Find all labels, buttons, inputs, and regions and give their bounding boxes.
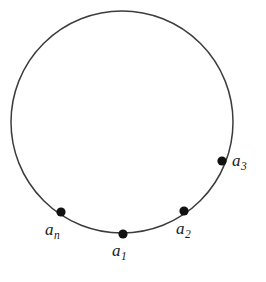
point-label-a2-subscript: 2 — [185, 228, 191, 240]
point-marker-a3[interactable] — [217, 156, 226, 165]
circle-outline — [11, 11, 233, 233]
point-marker-a2[interactable] — [179, 206, 188, 215]
point-marker-a1[interactable] — [118, 229, 127, 238]
point-label-an: an — [45, 221, 59, 238]
point-label-a1: a1 — [112, 242, 126, 259]
point-label-an-subscript: n — [54, 229, 60, 241]
circle-diagram-svg — [0, 0, 266, 282]
point-label-a2: a2 — [176, 220, 190, 237]
point-label-a1-base: a — [112, 241, 121, 260]
point-label-a3-base: a — [232, 151, 241, 170]
point-label-a2-base: a — [176, 219, 185, 238]
point-label-a1-subscript: 1 — [121, 250, 127, 262]
point-label-an-base: a — [45, 220, 54, 239]
point-marker-an[interactable] — [56, 207, 65, 216]
point-label-a3-subscript: 3 — [241, 160, 247, 172]
figure-canvas: a1 a2 a3 an — [0, 0, 266, 282]
point-label-a3: a3 — [232, 152, 246, 169]
